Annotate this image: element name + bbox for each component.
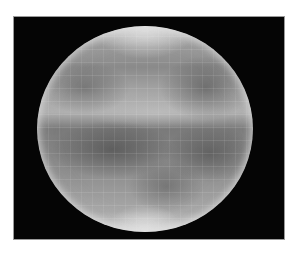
planet-disk bbox=[37, 26, 253, 232]
black-photo-frame bbox=[14, 17, 284, 239]
